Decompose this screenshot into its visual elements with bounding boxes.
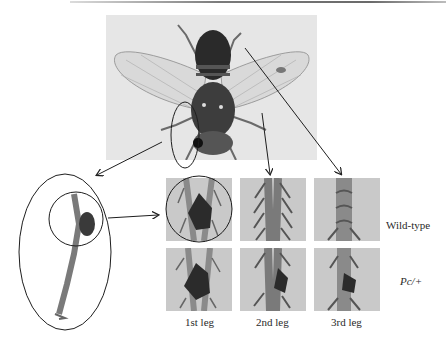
row-label-pc: Pc/+ [400, 275, 422, 287]
panel-pc-2nd-leg [240, 248, 306, 311]
leg-segment-icon [240, 248, 306, 311]
panel-wildtype-2nd-leg [240, 178, 306, 241]
leg-segment-icon [314, 248, 380, 311]
leg-segment-icon [166, 178, 232, 241]
arrow-to-1st-leg [108, 215, 158, 218]
leg-detail [19, 174, 111, 330]
panel-wildtype-1st-leg [166, 178, 232, 241]
leg-segment-icon [240, 178, 306, 241]
leg-icon [19, 174, 111, 330]
column-label-3rd-leg: 3rd leg [331, 316, 362, 328]
leg-segment-icon [166, 248, 232, 311]
panel-pc-3rd-leg [314, 248, 380, 311]
fly-photo [106, 15, 317, 160]
row-label-wildtype: Wild-type [386, 219, 430, 231]
column-label-2nd-leg: 2nd leg [256, 316, 289, 328]
leg-segment-icon [314, 178, 380, 241]
top-rule [70, 1, 446, 3]
column-label-1st-leg: 1st leg [185, 316, 214, 328]
panel-wildtype-3rd-leg [314, 178, 380, 241]
fly-icon [106, 15, 317, 160]
panel-pc-1st-leg [166, 248, 232, 311]
